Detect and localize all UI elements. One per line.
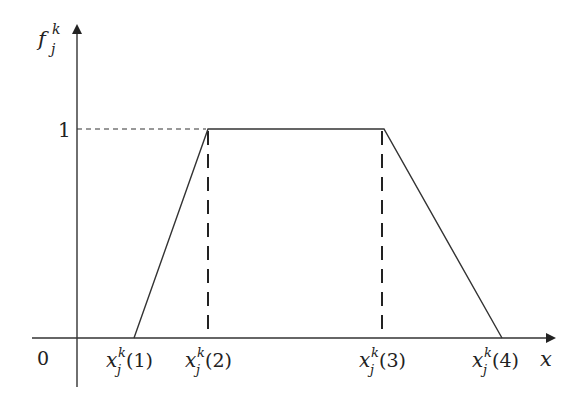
svg-text:k: k xyxy=(197,345,205,360)
svg-text:x: x xyxy=(185,348,196,372)
y-axis-label-sup: k xyxy=(52,21,60,37)
svg-text:(4): (4) xyxy=(492,349,519,371)
y-axis-label-sub: j xyxy=(48,41,56,57)
origin-label: 0 xyxy=(37,347,49,369)
svg-text:k: k xyxy=(484,345,492,360)
svg-text:(1): (1) xyxy=(126,349,153,371)
svg-text:x: x xyxy=(359,348,370,372)
svg-text:x: x xyxy=(472,348,483,372)
svg-text:x: x xyxy=(106,348,117,372)
svg-text:k: k xyxy=(118,345,126,360)
y-axis-label: f xyxy=(36,27,49,51)
x-tick-1: x k j (1) xyxy=(106,345,153,377)
svg-text:k: k xyxy=(371,345,379,360)
x-axis-label: x xyxy=(540,347,552,371)
x-tick-2: x k j (2) xyxy=(185,345,232,377)
svg-text:(3): (3) xyxy=(379,349,406,371)
trapezoid-membership-diagram: f k j 1 0 x k j (1) x k j (2) x k j (3) … xyxy=(0,0,584,405)
y-tick-one: 1 xyxy=(58,118,71,142)
membership-curve xyxy=(134,129,502,338)
x-tick-4: x k j (4) xyxy=(472,345,519,377)
svg-text:(2): (2) xyxy=(205,349,232,371)
x-tick-3: x k j (3) xyxy=(359,345,406,377)
